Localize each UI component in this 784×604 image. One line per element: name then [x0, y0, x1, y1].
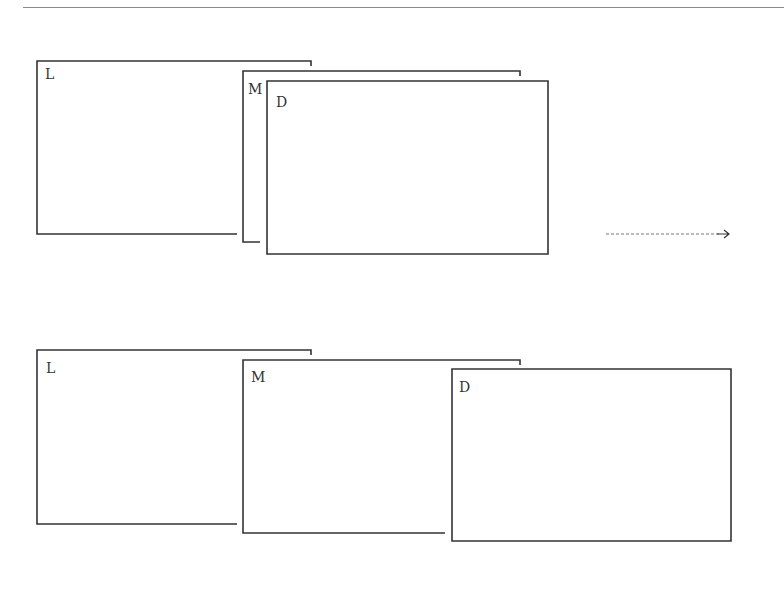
top-panel-d: [267, 81, 548, 254]
bottom-panel-l: [37, 350, 311, 524]
bottom-panel-m: [243, 360, 520, 533]
top-label-m: M: [248, 82, 262, 96]
bottom-label-l: L: [46, 361, 55, 375]
top-label-l: L: [45, 67, 54, 81]
top-label-d: D: [276, 95, 287, 109]
bottom-label-d: D: [459, 380, 470, 394]
top-panel-l: [37, 61, 311, 234]
layers-diagram: [0, 0, 784, 604]
bottom-label-m: M: [251, 370, 265, 384]
dashed-arrow-icon: [606, 230, 729, 238]
bottom-panel-d: [452, 369, 731, 541]
